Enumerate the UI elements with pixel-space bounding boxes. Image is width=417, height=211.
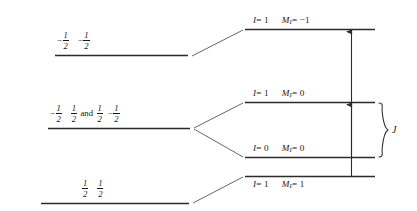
fraction-half: 1 2 [97, 179, 103, 198]
left-level-label-bottom: 1 2 1 2 [82, 179, 103, 198]
j-coupling-brace [379, 103, 388, 157]
left-level-label-middle: − 1 2 1 2 and 1 2 − 1 2 [50, 104, 120, 123]
fraction-half: 1 2 [83, 31, 89, 50]
correlation-line-bottom [193, 177, 243, 203]
correlation-lines [192, 30, 243, 203]
correlation-line-middle-upper [194, 103, 243, 128]
spin-value: = 0 [256, 143, 269, 153]
fraction-half: 1 2 [63, 31, 69, 50]
projection-symbol-M: M [282, 15, 290, 25]
projection-symbol-M: M [282, 88, 290, 98]
j-coupling-label: J [392, 124, 396, 135]
projection-value: = 0 [292, 143, 305, 153]
sign-minus: − [50, 108, 55, 119]
energy-level-diagram: − 1 2 − 1 2 − 1 2 1 2 and 1 2 [0, 0, 417, 211]
projection-value: = 0 [292, 88, 305, 98]
fraction-half: 1 2 [82, 179, 88, 198]
right-level-label-2: I= 1MI= 0 [253, 89, 304, 99]
left-level-lines [41, 56, 190, 204]
fraction-half: 1 2 [97, 104, 103, 123]
spin-value: = 1 [256, 15, 269, 25]
right-level-label-4: I= 1MI= 1 [253, 180, 304, 190]
projection-value: = 1 [292, 179, 305, 189]
fraction-half: 1 2 [71, 104, 77, 123]
correlation-line-middle-lower [194, 129, 243, 157]
projection-symbol-M: M [282, 179, 290, 189]
right-level-label-3: I= 0MI= 0 [253, 144, 304, 154]
projection-value: = −1 [292, 15, 310, 25]
spin-value: = 1 [256, 179, 269, 189]
sign-minus: − [78, 35, 83, 46]
spin-value: = 1 [256, 88, 269, 98]
fraction-half: 1 2 [56, 104, 62, 123]
conjunction-and: and [80, 108, 93, 119]
projection-symbol-M: M [282, 143, 290, 153]
sign-minus: − [108, 108, 113, 119]
correlation-line-top [192, 30, 243, 56]
right-level-lines [245, 30, 375, 177]
sign-minus: − [57, 35, 62, 46]
right-level-label-1: I= 1MI= −1 [253, 16, 310, 26]
left-level-label-top: − 1 2 − 1 2 [57, 31, 90, 50]
fraction-half: 1 2 [113, 104, 119, 123]
